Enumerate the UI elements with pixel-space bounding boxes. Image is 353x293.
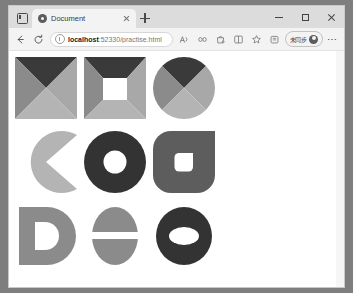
url-path: :52330/practise.html: [99, 36, 162, 43]
tab-title: Document: [51, 14, 117, 23]
tab-search-icon[interactable]: [12, 9, 32, 27]
document-favicon: [38, 14, 47, 23]
tab-document[interactable]: Document: [32, 9, 136, 28]
profile-label: 未同步: [290, 35, 307, 44]
upper-half: [84, 205, 146, 232]
rounded-blob: [153, 131, 215, 193]
split-ellipse: [84, 205, 146, 267]
inner-circle-hole: [104, 151, 127, 174]
shape-grid: [15, 57, 215, 267]
tab-search-glyph: [17, 13, 28, 24]
vertical-scrollbar[interactable]: [336, 51, 344, 287]
window-controls: [266, 6, 344, 28]
square-four-trapezoids: [84, 57, 146, 119]
url-text: localhost:52330/practise.html: [68, 36, 162, 43]
back-arrow-icon[interactable]: [12, 31, 29, 48]
new-tab-button[interactable]: [136, 9, 154, 27]
read-aloud-icon[interactable]: [176, 31, 193, 48]
favorites-star-icon[interactable]: [248, 31, 265, 48]
square-four-triangles: [15, 57, 77, 119]
maximize-button[interactable]: [292, 6, 318, 28]
letter-d: [15, 205, 77, 267]
donut-circle: [84, 131, 146, 193]
split-screen-icon[interactable]: [230, 31, 247, 48]
center-square-hole: [103, 78, 127, 100]
copilot-icon[interactable]: [194, 31, 211, 48]
white-band: [84, 232, 146, 239]
browser-toolbar: localhost:52330/practise.html: [9, 28, 344, 51]
close-icon[interactable]: [121, 13, 132, 24]
browser-window: Document localhost:52330/p: [8, 5, 345, 288]
shopping-bag-icon[interactable]: [212, 31, 229, 48]
page-content: [9, 51, 344, 287]
profile-avatar-icon: [309, 35, 318, 44]
circle-minus-wedge: [31, 131, 77, 193]
more-options-icon[interactable]: ⋯: [324, 31, 341, 48]
url-host: localhost: [68, 36, 99, 43]
address-bar[interactable]: localhost:52330/practise.html: [50, 32, 173, 47]
collections-icon[interactable]: [266, 31, 283, 48]
window-close-button[interactable]: [318, 6, 344, 28]
inner-ellipse-hole: [169, 227, 199, 245]
tab-strip: Document: [9, 6, 344, 28]
lower-half: [84, 239, 146, 267]
circle-four-wedges: [153, 57, 215, 119]
pacman-wedge: [15, 131, 77, 193]
minimize-button[interactable]: [266, 6, 292, 28]
ellipse-donut: [153, 205, 215, 267]
profile-button[interactable]: 未同步: [285, 31, 323, 47]
refresh-icon[interactable]: [30, 31, 47, 48]
info-circle-icon[interactable]: [55, 34, 65, 44]
inner-rounded-hole: [175, 153, 194, 172]
